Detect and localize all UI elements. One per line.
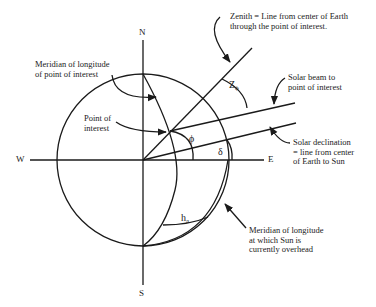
hour-angle-subscript: a: [186, 217, 189, 225]
solar-beam-annotation-line2: point of interest: [288, 83, 342, 93]
hour-angle-label: ha: [181, 212, 189, 223]
meridian-sun-leader-arrow: [225, 204, 246, 228]
north-label: N: [139, 27, 146, 37]
solar-declination-leader-arrow: [270, 127, 290, 143]
solar-declination-annotation-line3: of Earth to Sun: [293, 157, 354, 167]
south-label: S: [139, 288, 144, 298]
zenith-annotation-line2: through the point of interest.: [230, 22, 348, 32]
solar-beam-line: [170, 103, 295, 131]
zenith-angle-label: Zϕ: [229, 79, 239, 90]
meridian-sun-annotation-line3: currently overhead: [249, 245, 324, 255]
point-of-interest-annotation: Point of interest: [84, 114, 111, 133]
point-of-interest-leader-arrow: [116, 122, 166, 132]
zenith-annotation: Zenith = Line from center of Earth throu…: [230, 12, 348, 31]
east-label: E: [268, 154, 274, 164]
west-label: W: [16, 154, 25, 164]
meridian-point-annotation-line2: of point of interest: [35, 70, 110, 80]
latitude-angle-label: ϕ: [189, 133, 194, 144]
solar-declination-annotation: Solar declination = line from center of …: [293, 138, 354, 167]
zenith-line: [143, 48, 252, 160]
meridian-point-annotation: Meridian of longitude of point of intere…: [35, 60, 110, 79]
point-of-interest-annotation-line2: interest: [84, 124, 111, 134]
meridian-sun-annotation: Meridian of longitude at which Sun is cu…: [249, 226, 324, 255]
solar-beam-annotation: Solar beam to point of interest: [288, 73, 342, 92]
zenith-leader-arrow: [214, 17, 230, 62]
zenith-angle-subscript: ϕ: [235, 84, 239, 92]
solar-beam-leader-arrow: [274, 78, 285, 104]
solar-geometry-diagram: N S W E Zenith = Line from center of Ear…: [0, 0, 376, 307]
declination-angle-label: δ: [218, 146, 223, 157]
